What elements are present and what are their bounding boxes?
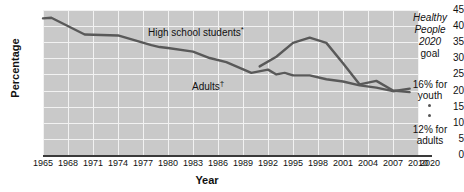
- x-axis-title: Year: [0, 174, 414, 186]
- series-label-adults-text: Adults: [192, 81, 220, 92]
- healthy-people-goal-note: Healthy People 2020 goal: [398, 12, 462, 60]
- series-label-adults: Adults†: [192, 78, 224, 92]
- gridline-h-30: [43, 58, 418, 59]
- gridline-h-15: [43, 107, 418, 108]
- series-label-adults-marker: †: [220, 79, 224, 88]
- gridline-h-5: [43, 139, 418, 140]
- gridline-v-1995: [293, 10, 294, 155]
- youth-target-line-1: 16% for: [397, 79, 463, 90]
- separator-dot-lower: [428, 114, 431, 117]
- x-axis-tick-1986: 1986: [208, 158, 228, 168]
- goal-note-line-2: People: [398, 24, 462, 36]
- chart-figure: 454035302520151050 Percentage 1965196819…: [0, 0, 464, 192]
- goal-note-line-4: goal: [398, 48, 462, 60]
- series-label-high-school-students: High school students*: [148, 24, 244, 38]
- gridline-v-1971: [93, 10, 94, 155]
- x-axis-tick-1968: 1968: [58, 158, 78, 168]
- gridline-v-1974: [118, 10, 119, 155]
- adults-target-line-1: 12% for: [397, 124, 463, 135]
- gridline-v-1992: [268, 10, 269, 155]
- gridline-h-10: [43, 123, 418, 124]
- x-axis-tick-1974: 1974: [108, 158, 128, 168]
- y-axis-tick-25: 25: [426, 69, 464, 79]
- x-axis-tick-1980: 1980: [158, 158, 178, 168]
- youth-target-line-2: youth: [397, 90, 463, 101]
- gridline-h-25: [43, 74, 418, 75]
- x-axis-tick-2004: 2004: [358, 158, 378, 168]
- x-axis-tick-1977: 1977: [133, 158, 153, 168]
- gridline-h-20: [43, 91, 418, 92]
- x-axis-tick-1992: 1992: [258, 158, 278, 168]
- adults-target-annotation: 12% for adults: [397, 124, 463, 146]
- goal-note-line-3: 2020: [398, 36, 462, 48]
- x-axis-tick-1998: 1998: [308, 158, 328, 168]
- x-axis-tick-2001: 2001: [333, 158, 353, 168]
- gridline-v-1965: [43, 10, 44, 155]
- x-axis-tick-1989: 1989: [233, 158, 253, 168]
- gridline-v-2004: [368, 10, 369, 155]
- separator-dot-upper: [428, 104, 431, 107]
- x-axis-tick-1965: 1965: [33, 158, 53, 168]
- gridline-v-2007: [393, 10, 394, 155]
- x-axis-tick-1971: 1971: [83, 158, 103, 168]
- gridline-v-1998: [318, 10, 319, 155]
- gridline-v-1968: [68, 10, 69, 155]
- x-axis-line: [43, 155, 432, 157]
- gridline-h-35: [43, 42, 418, 43]
- series-label-hs-text: High school students: [148, 27, 241, 38]
- x-axis-tick-1995: 1995: [283, 158, 303, 168]
- series-label-hs-marker: *: [241, 25, 244, 34]
- gridline-h-45: [43, 10, 418, 11]
- x-axis-tick-1983: 1983: [183, 158, 203, 168]
- gridline-v-1977: [143, 10, 144, 155]
- y-axis-title: Percentage: [9, 8, 21, 128]
- youth-target-annotation: 16% for youth: [397, 79, 463, 101]
- adults-target-line-2: adults: [397, 135, 463, 146]
- y-axis-tick-15: 15: [426, 102, 464, 112]
- goal-note-line-1: Healthy: [398, 12, 462, 24]
- gridline-v-2001: [343, 10, 344, 155]
- x-axis-tick-2020: 2020: [420, 158, 440, 168]
- x-axis-tick-2007: 2007: [383, 158, 403, 168]
